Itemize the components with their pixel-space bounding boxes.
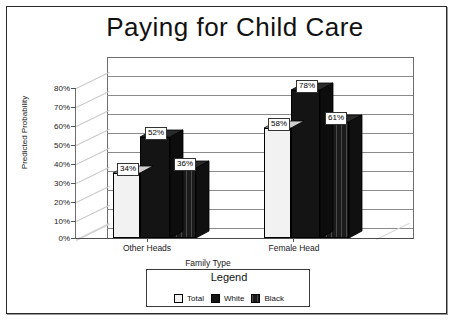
data-label-g2-black: 61% [325,112,347,125]
legend-item-total[interactable]: Total [174,294,204,303]
legend-label-total: Total [187,294,204,303]
bar-g2-total-face [264,128,291,238]
legend: Legend Total White Black [146,269,310,307]
x-axis-title: Family Type [148,258,268,268]
legend-item-black[interactable]: Black [251,294,284,303]
legend-swatch-white-icon [211,294,220,303]
x-tick-mark-other-heads [147,238,148,242]
x-category-other-heads: Other Heads [102,243,192,253]
legend-label-white: White [224,294,244,303]
chart-canvas: Paying for Child Care Predicted Probabil… [0,0,455,323]
legend-swatch-black-icon [251,294,260,303]
legend-swatch-total-icon [174,294,183,303]
legend-items: Total White Black [147,291,311,305]
bar-g2-total[interactable] [264,128,291,238]
x-tick-mark-female-head [293,238,294,242]
legend-item-white[interactable]: White [211,294,244,303]
legend-title: Legend [147,271,311,283]
x-category-female-head: Female Head [249,243,339,253]
legend-label-black: Black [264,294,284,303]
data-label-g2-white: 78% [296,80,318,93]
data-label-g2-total: 58% [268,118,290,131]
